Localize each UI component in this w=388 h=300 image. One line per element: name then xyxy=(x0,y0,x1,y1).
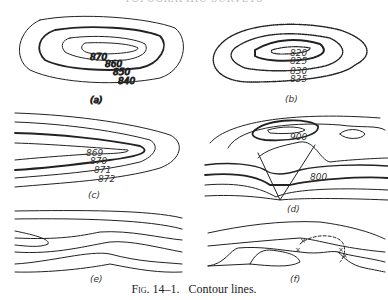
figure-caption: Fig. 14–1. Contour lines. xyxy=(0,282,388,297)
contour-label-872: 872 xyxy=(98,174,115,184)
contour-label-840: 840 xyxy=(118,76,135,86)
panel-c: 869 870 871 872 (c) xyxy=(15,113,179,200)
panel-f: × × × × (f) xyxy=(208,222,385,284)
figure-title: Contour lines. xyxy=(189,282,257,296)
panel-label-c: (c) xyxy=(88,190,100,200)
panel-e: (e) xyxy=(15,211,182,284)
panel-d: 900 800 (d) xyxy=(205,116,388,214)
contour-figure: 870 860 850 840 (a) 820 825 830 835 (b) … xyxy=(0,0,388,300)
contour-label-800: 800 xyxy=(310,172,327,182)
panel-a: 870 860 850 840 (a) xyxy=(19,16,183,105)
contour-label-835: 835 xyxy=(290,74,307,84)
contour-label-825: 825 xyxy=(290,56,307,66)
panel-label-b: (b) xyxy=(285,94,298,104)
panel-label-d: (d) xyxy=(287,204,300,214)
x-mark: × xyxy=(295,246,301,254)
figure-number: Fig. 14–1. xyxy=(131,282,179,296)
panel-label-a: (a) xyxy=(90,95,103,105)
contour-label-900: 900 xyxy=(290,132,307,142)
panel-b: 820 825 830 835 (b) xyxy=(213,24,367,104)
x-mark: × xyxy=(342,252,348,260)
x-mark: × xyxy=(300,237,306,245)
